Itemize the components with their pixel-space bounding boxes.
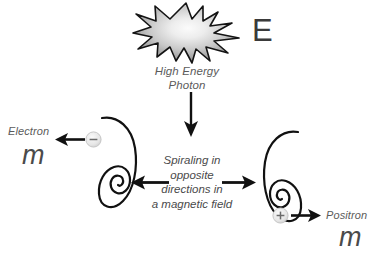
electron-particle-icon — [85, 131, 102, 148]
diagram-canvas: E High Energy Photon — [0, 0, 376, 256]
center-arrow-left-icon — [131, 174, 169, 191]
starburst-icon — [132, 2, 240, 64]
positron-arrow-right-icon — [291, 207, 321, 224]
center-arrow-right-icon — [222, 174, 256, 191]
energy-symbol: E — [252, 15, 273, 46]
photon-caption: High Energy Photon — [137, 64, 237, 92]
arrow-down-icon — [181, 92, 201, 138]
positron-particle-icon — [272, 207, 289, 224]
electron-mass-symbol: m — [22, 142, 45, 169]
spiral-left-icon — [92, 112, 148, 220]
positron-mass-symbol: m — [339, 224, 362, 251]
electron-arrow-left-icon — [55, 131, 85, 148]
electron-label: Electron — [8, 125, 49, 137]
positron-label: Positron — [326, 209, 367, 221]
